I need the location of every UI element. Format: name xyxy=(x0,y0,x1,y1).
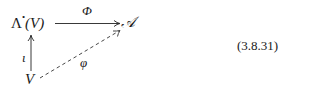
arrow-left-solid xyxy=(28,35,34,71)
arrow-top-solid xyxy=(55,21,120,27)
arrow-diagonal-dashed xyxy=(40,31,120,79)
equation-number: (3.8.31) xyxy=(237,39,278,52)
